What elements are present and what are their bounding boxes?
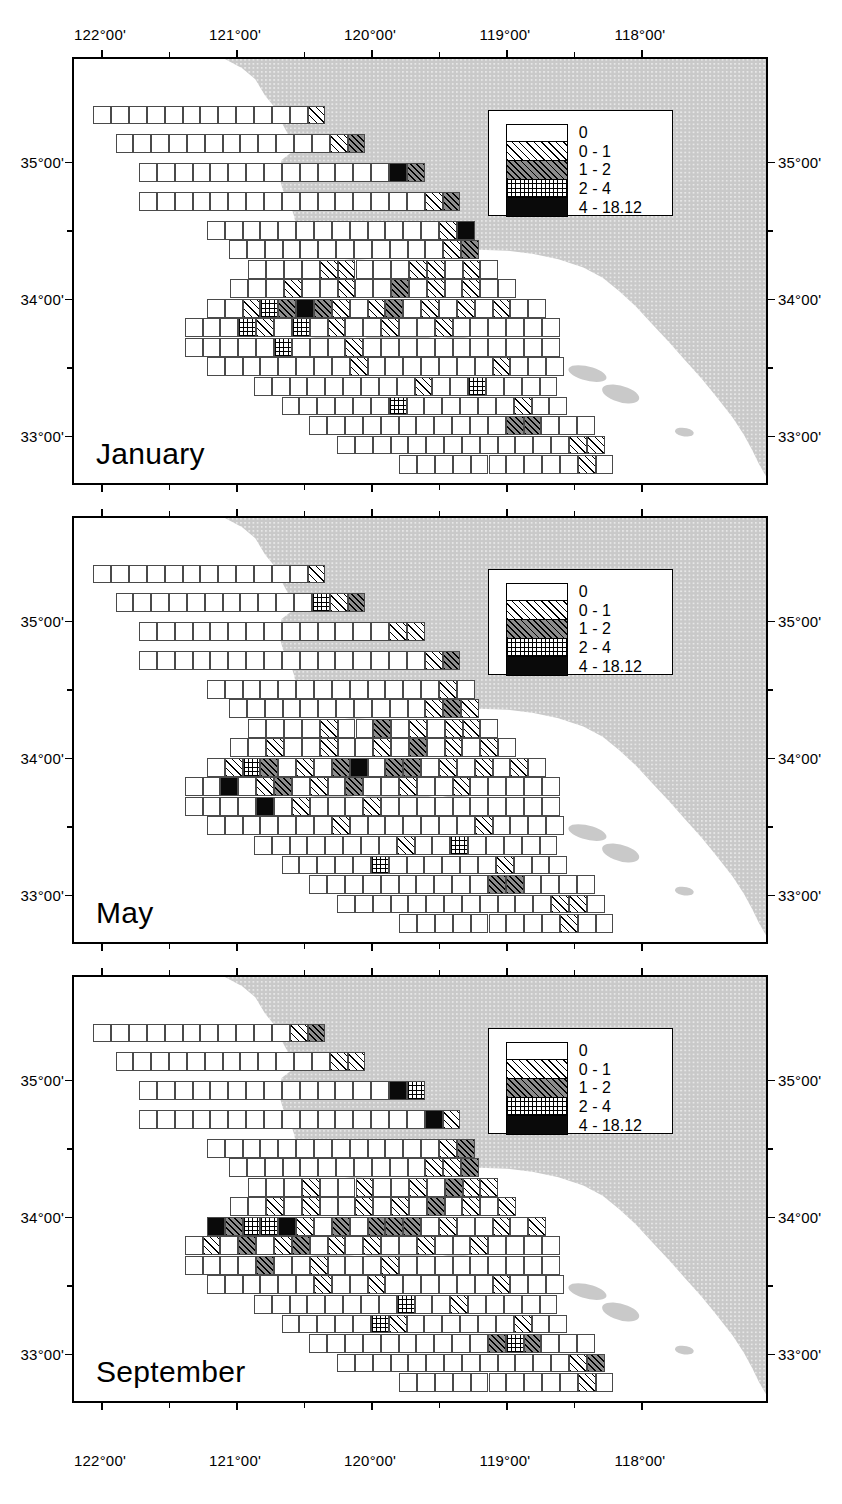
grid-cell	[350, 816, 368, 835]
grid-cell	[439, 1139, 457, 1158]
grid-cell	[318, 1110, 336, 1129]
panel-month-label: January	[96, 437, 205, 471]
grid-cell	[310, 1236, 328, 1255]
axis-tick-minor	[439, 944, 440, 949]
grid-cell	[478, 1315, 496, 1334]
grid-cell	[207, 221, 225, 240]
grid-cell	[256, 1256, 274, 1275]
grid-cell	[389, 163, 407, 182]
grid-cell	[470, 318, 488, 337]
grid-cell	[207, 758, 225, 777]
grid-cell	[332, 816, 350, 835]
grid-cell	[193, 1081, 211, 1100]
grid-cell	[569, 1354, 587, 1373]
grid-cell	[381, 1256, 399, 1275]
axis-tick-minor	[169, 944, 170, 949]
legend-row: 0	[506, 1042, 642, 1061]
grid-cell	[203, 797, 221, 816]
grid-cell	[417, 777, 435, 796]
grid-cell	[470, 416, 488, 435]
grid-cell	[246, 163, 264, 182]
legend-row: 4 - 18.12	[506, 657, 642, 676]
legend-row: 0 - 1	[506, 601, 642, 620]
grid-cell	[203, 1256, 221, 1275]
grid-cell	[371, 1315, 389, 1334]
axis-tick	[768, 299, 775, 300]
grid-cell	[310, 318, 328, 337]
axis-tick-minor	[67, 1285, 72, 1286]
grid-cell	[427, 1197, 445, 1216]
grid-cell	[350, 1275, 368, 1294]
legend-row: 2 - 4	[506, 639, 642, 658]
grid-cell	[381, 1236, 399, 1255]
legend-swatch-diagonal-hatch-gray	[506, 620, 568, 639]
grid-cell	[424, 856, 442, 875]
grid-cell	[506, 455, 524, 474]
grid-cell	[314, 299, 332, 318]
grid-cell	[470, 1256, 488, 1275]
legend-row: 4 - 18.12	[506, 1116, 642, 1135]
grid-cell	[560, 1373, 578, 1392]
grid-cell	[407, 192, 425, 211]
grid-cell	[407, 1110, 425, 1129]
grid-cell	[435, 318, 453, 337]
grid-cell	[424, 397, 442, 416]
map-legend: 00 - 11 - 22 - 44 - 18.12	[488, 1028, 673, 1134]
grid-cell	[389, 856, 407, 875]
grid-cell	[391, 1178, 409, 1197]
grid-cell	[256, 777, 274, 796]
grid-cell	[390, 240, 408, 259]
legend-swatch-solid-black	[506, 198, 568, 217]
grid-cell	[318, 651, 336, 670]
grid-cell	[457, 1275, 475, 1294]
axis-tick-minor	[574, 944, 575, 949]
grid-cell	[274, 1236, 292, 1255]
grid-cell	[193, 192, 211, 211]
grid-cell	[205, 1052, 223, 1071]
grid-cell	[354, 1158, 372, 1177]
grid-cell	[445, 1197, 463, 1216]
grid-cell	[205, 593, 223, 612]
grid-cell	[457, 357, 475, 376]
axis-tick-minor	[304, 970, 305, 975]
legend-swatch-diagonal-hatch-light	[506, 601, 568, 620]
grid-cell	[317, 856, 335, 875]
axis-tick	[236, 509, 237, 516]
grid-cell	[385, 1275, 403, 1294]
grid-cell	[248, 260, 266, 279]
grid-cell	[332, 1275, 350, 1294]
grid-cell	[335, 192, 353, 211]
grid-cell	[432, 377, 450, 396]
axis-tick-minor	[304, 1403, 305, 1408]
grid-cell	[266, 738, 284, 757]
axis-tick	[641, 509, 642, 516]
x-tick-label: 118°00'	[615, 26, 666, 43]
grid-cell	[274, 1256, 292, 1275]
grid-cell	[399, 914, 417, 933]
grid-cell	[397, 836, 415, 855]
x-tick-label: 122°00'	[74, 1452, 126, 1469]
legend-row: 2 - 4	[506, 1098, 642, 1117]
grid-cell	[338, 260, 356, 279]
grid-cell	[210, 192, 228, 211]
grid-cell	[157, 192, 175, 211]
grid-cell	[540, 377, 558, 396]
grid-cell	[425, 192, 443, 211]
grid-cell	[332, 1139, 350, 1158]
grid-cell	[399, 1373, 417, 1392]
grid-cell	[93, 1024, 111, 1043]
grid-cell	[133, 1052, 151, 1071]
grid-cell	[290, 1295, 308, 1314]
grid-cell	[296, 1275, 314, 1294]
axis-tick	[506, 509, 507, 516]
grid-cell	[587, 1354, 605, 1373]
grid-cell	[417, 914, 435, 933]
grid-cell	[336, 699, 354, 718]
map-legend: 00 - 11 - 22 - 44 - 18.12	[488, 110, 673, 216]
grid-cell	[282, 1315, 300, 1334]
grid-cell	[439, 758, 457, 777]
grid-cell	[373, 738, 391, 757]
grid-cell	[559, 416, 577, 435]
grid-cell	[276, 1052, 294, 1071]
y-tick-label: 33°00'	[8, 1345, 64, 1362]
